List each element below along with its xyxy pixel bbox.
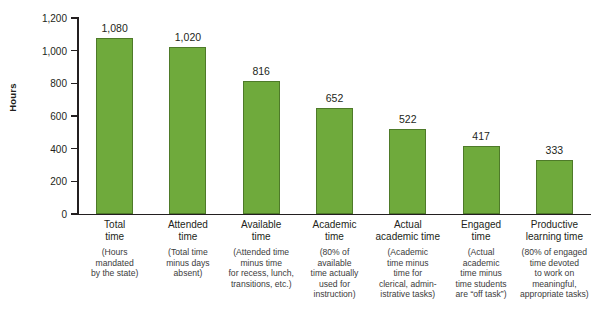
- bar-group: 333: [518, 18, 591, 214]
- bar-value-label: 1,020: [175, 31, 201, 43]
- page-footer-text: [40, 305, 580, 312]
- y-tick-label: 1,000: [7, 45, 67, 56]
- x-axis-label: Productivelearning time(80% of engagedti…: [511, 219, 598, 300]
- y-tick-mark: [71, 50, 78, 52]
- y-tick-mark: [71, 83, 78, 85]
- x-axis-labels: Totaltime(Hoursmandatedby the state)Atte…: [78, 219, 591, 313]
- x-axis-label-description: (80% of engagedtime devotedto work onmea…: [511, 247, 598, 300]
- y-tick-mark: [71, 181, 78, 183]
- y-tick-label: 200: [7, 176, 67, 187]
- bar-value-label: 652: [326, 92, 344, 104]
- bar-chart: Hours 02004006008001,0001,200 1,0801,020…: [0, 0, 603, 313]
- bar: [316, 108, 353, 214]
- bar-group: 816: [225, 18, 298, 214]
- bar-group: 522: [371, 18, 444, 214]
- bar-value-label: 522: [399, 113, 417, 125]
- bar: [243, 81, 280, 214]
- bar: [463, 146, 500, 214]
- bar-value-label: 333: [546, 144, 564, 156]
- bar: [536, 160, 573, 214]
- y-tick-label: 0: [7, 209, 67, 220]
- y-tick-label: 600: [7, 111, 67, 122]
- bar-group: 652: [298, 18, 371, 214]
- bar-value-label: 417: [472, 130, 490, 142]
- y-tick-mark: [71, 115, 78, 117]
- bar-value-label: 1,080: [102, 22, 128, 34]
- y-tick-label: 800: [7, 78, 67, 89]
- bar-group: 1,020: [151, 18, 224, 214]
- bar: [169, 47, 206, 214]
- y-tick-mark: [71, 17, 78, 19]
- y-tick-label: 1,200: [7, 13, 67, 24]
- x-axis-label-main: Productivelearning time: [511, 219, 598, 242]
- bar-group: 1,080: [78, 18, 151, 214]
- y-tick-label: 400: [7, 143, 67, 154]
- y-tick-mark: [71, 148, 78, 150]
- bar-group: 417: [444, 18, 517, 214]
- y-tick-mark: [71, 213, 78, 215]
- plot-area: 1,0801,020816652522417333: [78, 18, 591, 214]
- bar-value-label: 816: [252, 65, 270, 77]
- bar: [96, 38, 133, 214]
- bar: [389, 129, 426, 214]
